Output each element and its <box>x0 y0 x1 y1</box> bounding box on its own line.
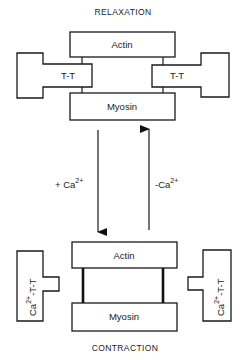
relaxation-contraction-diagram: RELAXATION T-T T-T Actin Myosin + Ca2+ -… <box>0 0 247 360</box>
actin-label-contracted: Actin <box>113 250 134 261</box>
contraction-title: CONTRACTION <box>92 343 159 353</box>
troponin-left-label: T-T <box>61 70 75 81</box>
relaxation-title: RELAXATION <box>94 7 151 17</box>
myosin-label-relaxed: Myosin <box>107 101 137 112</box>
transition-arrows: + Ca2+ -Ca2+ <box>55 129 178 232</box>
troponin-right-label: T-T <box>170 70 184 81</box>
myosin-label-contracted: Myosin <box>109 311 139 322</box>
calcium-troponin-left-shape <box>17 251 59 321</box>
contraction-state: Ca2+-T-T Ca2+-T-T Actin Myosin <box>17 242 231 331</box>
relaxation-state: T-T T-T Actin Myosin <box>17 32 229 120</box>
add-calcium-label: + Ca2+ <box>55 177 83 190</box>
actin-label-relaxed: Actin <box>111 39 132 50</box>
remove-calcium-label: -Ca2+ <box>155 177 178 190</box>
troponin-left-shape <box>17 53 92 98</box>
